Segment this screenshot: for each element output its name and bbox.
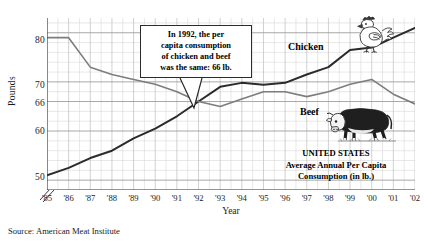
x-tick-94: '94 xyxy=(230,193,254,203)
cow-icon xyxy=(326,100,398,142)
x-tick-00: '00 xyxy=(360,193,384,203)
source-note: Source: American Meat Institute xyxy=(8,226,120,236)
series-label-beef: Beef xyxy=(300,106,319,117)
callout-line-2: capita consumption xyxy=(145,40,247,51)
x-tick-90: '90 xyxy=(143,193,167,203)
y-axis: 80 70 66 60 50 xyxy=(16,0,45,248)
x-tick-98: '98 xyxy=(316,193,340,203)
x-axis: '85'86'87'88'89'90'91'92'93'94'95'96'97'… xyxy=(47,193,415,206)
y-tick-60: 60 xyxy=(23,127,45,137)
x-tick-88: '88 xyxy=(100,193,124,203)
x-tick-93: '93 xyxy=(208,193,232,203)
x-tick-02: '02 xyxy=(403,193,425,203)
x-tick-99: '99 xyxy=(338,193,362,203)
x-tick-87: '87 xyxy=(78,193,102,203)
x-tick-85: '85 xyxy=(35,193,59,203)
x-tick-96: '96 xyxy=(273,193,297,203)
caption-line-2: Average Annual Per Capita xyxy=(256,160,416,172)
x-tick-95: '95 xyxy=(251,193,275,203)
x-tick-89: '89 xyxy=(122,193,146,203)
x-tick-86: '86 xyxy=(57,193,81,203)
callout-line-1: In 1992, the per xyxy=(145,29,247,40)
y-tick-80: 80 xyxy=(23,36,45,46)
series-label-chicken: Chicken xyxy=(288,41,324,52)
x-tick-97: '97 xyxy=(295,193,319,203)
callout-box: In 1992, the per capita consumption of c… xyxy=(140,25,252,78)
x-axis-title: Year xyxy=(47,206,415,216)
caption-line-1: UNITED STATES xyxy=(256,148,416,160)
callout-line-3: of chicken and beef xyxy=(145,51,247,62)
y-tick-70: 70 xyxy=(23,81,45,91)
y-tick-50: 50 xyxy=(23,173,45,183)
chicken-icon xyxy=(349,11,395,53)
x-tick-01: '01 xyxy=(381,193,405,203)
x-tick-92: '92 xyxy=(187,193,211,203)
y-axis-title: Pounds xyxy=(7,63,17,119)
callout-pointer xyxy=(178,78,214,110)
callout-line-4: was the same: 66 lb. xyxy=(145,62,247,73)
caption-line-3: Consumption (in lb.) xyxy=(256,171,416,183)
y-tick-66: 66 xyxy=(23,99,45,109)
consumption-line-chart-figure: 80 70 66 60 50 Pounds '85'86'87'88'89'90… xyxy=(0,0,425,248)
chart-caption: UNITED STATES Average Annual Per Capita … xyxy=(256,148,416,183)
x-tick-91: '91 xyxy=(165,193,189,203)
